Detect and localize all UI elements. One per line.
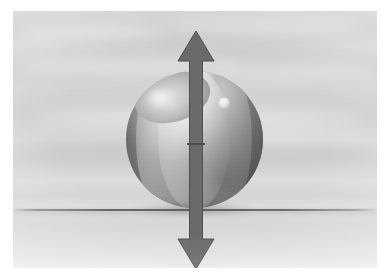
cloud-band-upper-left — [19, 25, 169, 41]
ball-valve-icon — [219, 98, 229, 108]
arrow-glyph — [176, 31, 216, 268]
arrow-double-head-shape — [178, 31, 214, 268]
photograph: Beach ball bobbing vertically in water B… — [13, 11, 377, 268]
vertical-motion-arrow — [176, 31, 216, 268]
figure-root: Beach ball bobbing vertically in water B… — [0, 0, 387, 279]
